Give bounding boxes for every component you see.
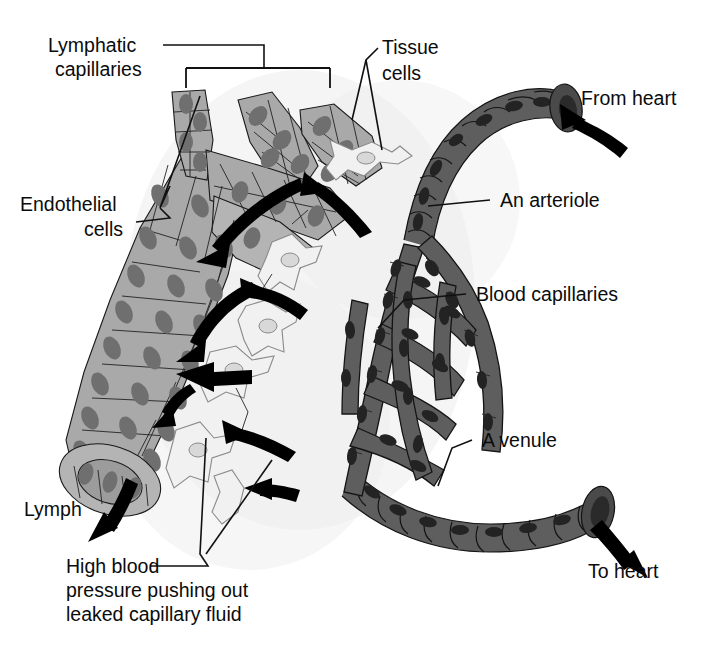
label-high-blood-pressure-line2: pressure pushing out bbox=[66, 579, 249, 601]
label-to-heart: To heart bbox=[588, 560, 659, 582]
label-tissue-cells-line1: Tissue bbox=[382, 36, 439, 58]
diagram-canvas: Lymphatic capillaries Tissue cells From … bbox=[0, 0, 706, 648]
label-from-heart: From heart bbox=[581, 87, 677, 109]
label-endothelial-cells-line1: Endothelial bbox=[20, 193, 117, 215]
label-endothelial-cells-line2: cells bbox=[84, 218, 123, 240]
label-high-blood-pressure-line1: High blood bbox=[66, 555, 159, 577]
label-an-arteriole: An arteriole bbox=[500, 189, 600, 211]
label-blood-capillaries: Blood capillaries bbox=[476, 283, 618, 305]
label-lymph: Lymph bbox=[24, 498, 82, 520]
label-high-blood-pressure-line3: leaked capillary fluid bbox=[66, 603, 242, 625]
label-a-venule: A venule bbox=[482, 429, 557, 451]
label-tissue-cells-line2: cells bbox=[382, 62, 421, 84]
label-lymphatic-capillaries-line1: Lymphatic bbox=[48, 34, 136, 56]
label-lymphatic-capillaries-line2: capillaries bbox=[55, 58, 142, 80]
